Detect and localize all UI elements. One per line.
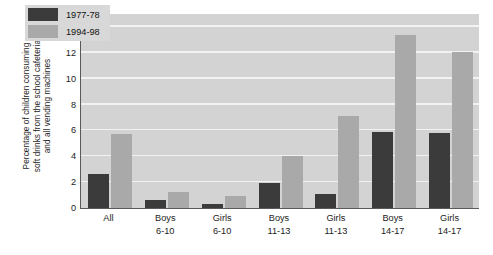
x-axis-tick-label: Girls6-10 [213, 212, 232, 237]
legend-label-1994-98: 1994-98 [66, 27, 100, 37]
legend-swatch-icon-1994-98 [28, 25, 58, 38]
bar [372, 132, 393, 208]
bar [395, 35, 416, 208]
bar-group [365, 14, 422, 208]
bar [452, 52, 473, 208]
bar-chart-figure: Percentage of children consuming soft dr… [0, 0, 493, 255]
y-axis-tick-label: 8 [52, 100, 76, 110]
bar [202, 204, 223, 208]
bar-group [308, 14, 365, 208]
bar [259, 183, 280, 208]
bar [111, 134, 132, 208]
plot-area [80, 14, 479, 209]
legend-item-1977-78: 1977-78 [28, 8, 100, 21]
x-axis-tick-labels: AllBoys6-10Girls6-10Boys11-13Girls11-13B… [80, 212, 478, 252]
y-axis-tick-label: 6 [52, 125, 76, 135]
legend-label-1977-78: 1977-78 [66, 10, 100, 20]
bar [168, 192, 189, 208]
legend-item-1994-98: 1994-98 [28, 25, 100, 38]
y-axis-tick-label: 10 [52, 74, 76, 84]
bar [429, 133, 450, 208]
x-axis-tick-label: Girls11-13 [324, 212, 347, 237]
bar [145, 200, 166, 208]
bar-group [195, 14, 252, 208]
bar-group [138, 14, 195, 208]
bar-group [252, 14, 309, 208]
bar [338, 116, 359, 208]
x-axis-tick-label: All [103, 212, 113, 225]
x-axis-tick-label: Boys11-13 [268, 212, 291, 237]
y-axis-title-line-1: Percentage of children consuming [21, 43, 32, 170]
y-axis-tick-label: 0 [52, 203, 76, 213]
y-axis-tick-label: 4 [52, 151, 76, 161]
bars-layer [81, 14, 479, 208]
y-axis-tick-labels: 02468101214 [52, 14, 76, 208]
bar [225, 196, 246, 208]
bar-group [81, 14, 138, 208]
bar-group [422, 14, 479, 208]
y-axis-tick-label: 12 [52, 48, 76, 58]
x-axis-tick-label: Girls14-17 [438, 212, 462, 237]
bar [282, 156, 303, 208]
legend: 1977-78 1994-98 [25, 5, 110, 41]
x-axis-tick-label: Boys14-17 [381, 212, 405, 237]
bar [315, 194, 336, 208]
y-axis-title-line-2: soft drinks from the school cafeteria [32, 40, 43, 172]
bar [88, 174, 109, 208]
y-axis-tick-label: 2 [52, 177, 76, 187]
x-axis-tick-label: Boys6-10 [155, 212, 175, 237]
legend-swatch-icon-1977-78 [28, 8, 58, 21]
